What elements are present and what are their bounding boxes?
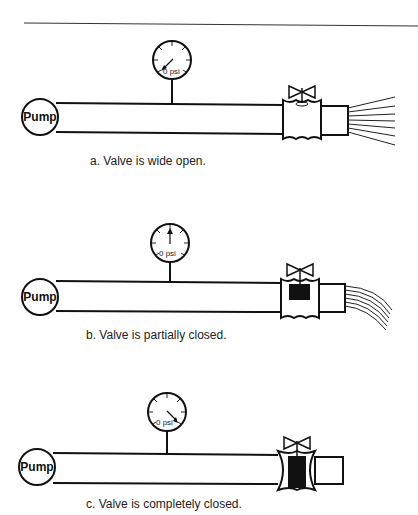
pump-label: Pump	[23, 290, 56, 304]
pipe-top	[56, 281, 281, 283]
water-stream	[345, 286, 392, 330]
gauge-reading: 0 psi	[163, 67, 180, 76]
valve-open	[283, 86, 321, 139]
pressure-gauge: 0 psi	[151, 224, 189, 281]
panel-a: 0 psi Pump a. Val	[22, 41, 395, 168]
pipe-top	[56, 103, 283, 105]
valve-gate	[288, 456, 306, 488]
pump-label: Pump	[20, 460, 53, 474]
outlet-pipe	[319, 284, 345, 312]
panel-b: 0 psi Pump b. Valve is partially closed.	[22, 224, 392, 342]
outlet-pipe	[315, 457, 343, 484]
top-rule	[24, 23, 418, 26]
pump-label: Pump	[23, 110, 56, 124]
outlet-pipe	[321, 106, 348, 135]
pressure-gauge: 0 psi	[148, 393, 186, 453]
valve-gate	[289, 284, 310, 300]
pipe-top	[53, 453, 278, 455]
pipe-bottom	[53, 483, 278, 484]
gauge-reading: 0 psi	[159, 249, 176, 258]
pressure-gauge: 0 psi	[153, 41, 191, 103]
pipe-bottom	[56, 132, 283, 134]
pipe-bottom	[56, 311, 281, 312]
panel-c: 0 psi Pump c. Valve is completely closed…	[19, 393, 343, 511]
valve-partially-closed	[281, 264, 319, 318]
caption: b. Valve is partially closed.	[86, 328, 227, 342]
pump: Pump	[22, 99, 58, 135]
gauge-reading: 0 psi	[156, 418, 173, 427]
water-spray	[348, 97, 395, 145]
valve-closed	[278, 437, 315, 490]
caption: a. Valve is wide open.	[90, 154, 206, 168]
pump-valve-diagram: 0 psi Pump a. Val	[0, 0, 418, 515]
pump: Pump	[22, 279, 58, 315]
caption: c. Valve is completely closed.	[86, 497, 242, 511]
pump: Pump	[19, 449, 55, 485]
